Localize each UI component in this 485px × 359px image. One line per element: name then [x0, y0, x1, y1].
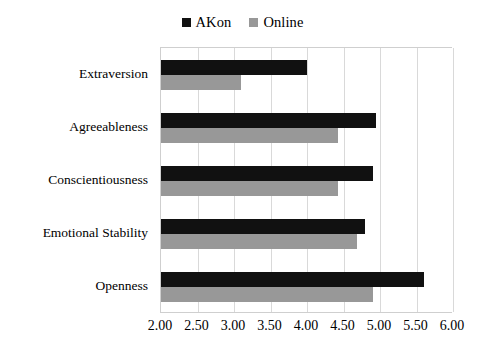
- x-tick-label: 2.00: [148, 318, 173, 334]
- x-tick-label: 4.00: [294, 318, 319, 334]
- bar-akon-conscientiousness: [161, 166, 373, 181]
- bar-online-openness: [161, 287, 373, 302]
- category-label-agreeableness: Agreeableness: [69, 100, 148, 153]
- bar-group: [161, 208, 452, 261]
- bar-online-conscientiousness: [161, 181, 338, 196]
- legend-entry-online: Online: [249, 15, 303, 30]
- x-tick-label: 5.00: [367, 318, 392, 334]
- bar-akon-agreeableness: [161, 113, 376, 128]
- category-axis-labels: ExtraversionAgreeablenessConscientiousne…: [0, 47, 155, 313]
- bar-chart: AKon Online ExtraversionAgreeablenessCon…: [0, 0, 485, 359]
- x-tick-label: 3.50: [257, 318, 282, 334]
- x-tick-label: 5.50: [403, 318, 428, 334]
- x-tick-label: 2.50: [184, 318, 209, 334]
- legend-label-online: Online: [263, 15, 303, 30]
- gridline: [453, 48, 454, 312]
- bar-akon-openness: [161, 272, 424, 287]
- legend-swatch-square-icon-online: [249, 18, 258, 27]
- bar-group: [161, 48, 452, 101]
- x-tick-label: 6.00: [440, 318, 465, 334]
- bar-online-extraversion: [161, 75, 241, 90]
- x-axis-tick-labels: 2.002.503.003.504.004.505.005.506.00: [160, 318, 452, 342]
- category-label-openness: Openness: [96, 260, 149, 313]
- legend-label-akon: AKon: [196, 15, 232, 30]
- chart-legend: AKon Online: [0, 11, 485, 33]
- bar-group: [161, 261, 452, 314]
- legend-swatch-square-icon-akon: [182, 18, 191, 27]
- category-label-extraversion: Extraversion: [79, 47, 148, 100]
- category-label-conscientiousness: Conscientiousness: [48, 153, 148, 206]
- bar-group: [161, 101, 452, 154]
- x-tick-label: 4.50: [330, 318, 355, 334]
- bar-akon-extraversion: [161, 60, 307, 75]
- bar-online-emotional-stability: [161, 234, 357, 249]
- category-label-emotional-stability: Emotional Stability: [43, 207, 148, 260]
- bar-groups: [161, 48, 452, 312]
- bar-akon-emotional-stability: [161, 219, 365, 234]
- bar-online-agreeableness: [161, 128, 338, 143]
- plot-area: [160, 47, 452, 313]
- x-tick-label: 3.00: [221, 318, 246, 334]
- legend-entry-akon: AKon: [182, 15, 232, 30]
- bar-group: [161, 154, 452, 207]
